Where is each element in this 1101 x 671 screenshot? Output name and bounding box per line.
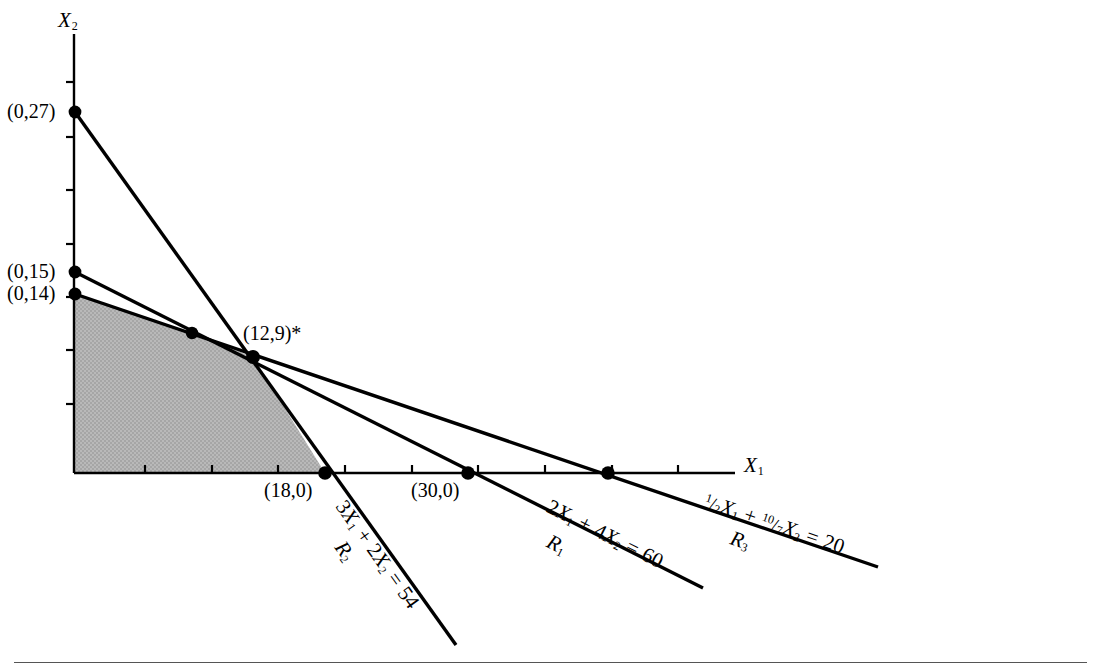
point-marker-0-27 xyxy=(69,106,82,119)
point-marker-12-9 xyxy=(246,350,260,364)
point-marker-0-14 xyxy=(69,288,82,301)
point-label-0-14: (0,14) xyxy=(7,283,55,303)
linear-programming-figure: X2 X1 (0,27) (0,15) (0,14) (12,9)* (18,0… xyxy=(0,0,1101,671)
point-marker-0-15 xyxy=(69,266,82,279)
point-marker-30-0 xyxy=(461,466,475,480)
plot-canvas xyxy=(0,0,1101,671)
feasible-region xyxy=(75,294,325,473)
x-axis-label: X1 xyxy=(744,455,764,477)
point-label-12-9: (12,9)* xyxy=(243,323,301,343)
bottom-divider xyxy=(14,662,1087,663)
point-marker-18-0 xyxy=(318,466,332,480)
point-label-18-0: (18,0) xyxy=(264,480,312,500)
point-label-30-0: (30,0) xyxy=(411,480,459,500)
y-axis-label: X2 xyxy=(58,10,78,32)
point-label-0-15: (0,15) xyxy=(7,261,55,281)
point-marker-40-0 xyxy=(601,466,615,480)
point-marker-r3-r1-intersection xyxy=(186,327,198,339)
point-label-0-27: (0,27) xyxy=(7,101,55,121)
